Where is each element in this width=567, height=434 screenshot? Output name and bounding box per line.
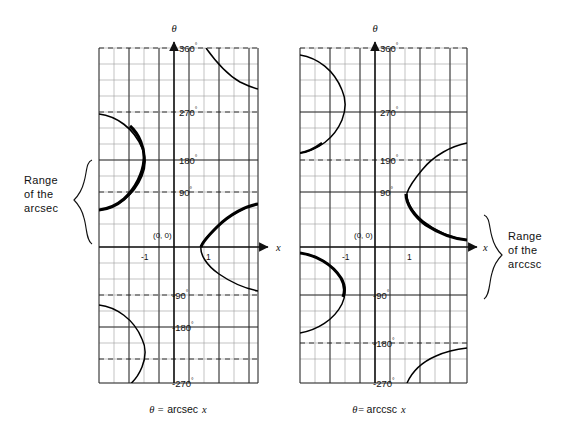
caption-prefix: θ = [149, 404, 164, 415]
y-axis-label-arccsc: θ [372, 23, 377, 34]
svg-text:-270°: -270° [172, 377, 194, 389]
range-label-arcsec: Range of the arcsec [24, 174, 58, 214]
degree-symbol: ° [387, 289, 390, 296]
y-tick-label: -180 [172, 322, 191, 333]
y-tick-label: 360 [179, 43, 195, 54]
x-tick-label-pos1-arccsc: 1 [407, 252, 412, 262]
y-tick-label: 270 [179, 107, 195, 118]
caption-prefix: θ= [352, 404, 364, 415]
degree-symbol: ° [195, 154, 198, 161]
origin-label-arccsc: (0, 0) [354, 231, 373, 240]
arcsec-arccsc-figure: θ x 360° 270° 180° 90° -90° -180° -270° … [0, 0, 567, 434]
y-tick-label: -270 [172, 378, 191, 389]
range-label-line: Range [508, 230, 542, 242]
caption-variable: x [201, 404, 207, 415]
range-label-line: of the [24, 188, 53, 200]
y-tick-label: 190 [380, 155, 396, 166]
y-tick-label: -90 [373, 290, 387, 301]
degree-symbol: ° [396, 106, 399, 113]
x-tick-label-pos1-arcsec: 1 [206, 252, 211, 262]
y-tick-label: -180 [373, 338, 392, 349]
y-tick-label: 270 [380, 107, 396, 118]
caption-function: arcsec [167, 403, 198, 415]
svg-text:-180°: -180° [172, 321, 194, 333]
range-label-line: arccsc [508, 258, 542, 270]
svg-text:-180°: -180° [373, 337, 395, 349]
degree-symbol: ° [392, 337, 395, 344]
degree-symbol: ° [396, 42, 399, 49]
degree-symbol: ° [191, 377, 194, 384]
svg-text:-270°: -270° [373, 377, 395, 389]
degree-symbol: ° [396, 154, 399, 161]
degree-symbol: ° [186, 289, 189, 296]
figure-background [0, 0, 567, 434]
y-tick-label: 360 [380, 43, 396, 54]
range-label-line: arcsec [24, 202, 58, 214]
y-tick-label: 90 [380, 187, 391, 198]
x-axis-label-arccsc: x [482, 242, 488, 253]
y-tick-label: 180 [179, 155, 195, 166]
y-tick-label: -270 [373, 378, 392, 389]
x-axis-label-arcsec: x [275, 242, 281, 253]
y-axis-label-arcsec: θ [171, 23, 176, 34]
degree-symbol: ° [191, 321, 194, 328]
degree-symbol: ° [195, 42, 198, 49]
degree-symbol: ° [190, 186, 193, 193]
degree-symbol: ° [391, 186, 394, 193]
origin-label-arcsec: (0, 0) [153, 231, 172, 240]
y-tick-label: 90 [179, 187, 190, 198]
range-label-arccsc: Range of the arccsc [508, 230, 542, 270]
caption-function: arccsc [367, 403, 397, 415]
caption-variable: x [400, 404, 406, 415]
degree-symbol: ° [392, 377, 395, 384]
y-tick-label: -90 [172, 290, 186, 301]
degree-symbol: ° [195, 106, 198, 113]
x-tick-label-neg1-arccsc: -1 [342, 252, 350, 262]
x-tick-label-neg1-arcsec: -1 [141, 252, 149, 262]
range-label-line: Range [24, 174, 58, 186]
range-label-line: of the [508, 244, 537, 256]
